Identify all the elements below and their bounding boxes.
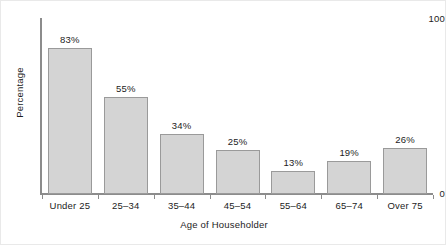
x-axis-tick-label: Under 25 (42, 200, 98, 211)
bar-value-label: 83% (34, 34, 106, 45)
x-axis-title: Age of Householder (1, 219, 446, 230)
bar-value-label: 34% (146, 120, 218, 131)
bar[interactable] (104, 97, 148, 194)
bar-group: 19% (327, 18, 371, 194)
y-axis-title: Percentage (14, 53, 25, 133)
x-axis-tick-mark (98, 195, 99, 199)
bar[interactable] (48, 48, 92, 194)
bar-group: 55% (104, 18, 148, 194)
bar-value-label: 25% (202, 136, 274, 147)
x-axis-tick-mark (377, 195, 378, 199)
bar-group: 83% (48, 18, 92, 194)
bar[interactable] (216, 150, 260, 194)
bar-value-label: 26% (369, 134, 441, 145)
bar-group: 34% (160, 18, 204, 194)
bar-group: 13% (271, 18, 315, 194)
x-axis-tick-mark (265, 195, 266, 199)
plot-area: 83%55%34%25%13%19%26% (42, 18, 433, 194)
bar-group: 25% (216, 18, 260, 194)
bar[interactable] (327, 161, 371, 194)
bar-value-label: 55% (90, 83, 162, 94)
x-axis-tick-label: 65–74 (321, 200, 377, 211)
x-axis-tick-mark (154, 195, 155, 199)
bar[interactable] (383, 148, 427, 194)
bar-chart-figure: 100 0 Percentage Age of Householder 83%5… (0, 0, 446, 245)
x-axis-tick-label: 45–54 (210, 200, 266, 211)
bar-value-label: 13% (257, 157, 329, 168)
x-axis-tick-label: 55–64 (265, 200, 321, 211)
x-axis-tick-mark (433, 195, 434, 199)
bar[interactable] (271, 171, 315, 194)
bar-group: 26% (383, 18, 427, 194)
bar-value-label: 19% (313, 147, 385, 158)
x-axis-tick-mark (321, 195, 322, 199)
x-axis-tick-mark (210, 195, 211, 199)
x-axis-tick-mark (42, 195, 43, 199)
bar[interactable] (160, 134, 204, 194)
x-axis-tick-label: Over 75 (377, 200, 433, 211)
x-axis-tick-label: 25–34 (98, 200, 154, 211)
x-axis-tick-label: 35–44 (154, 200, 210, 211)
